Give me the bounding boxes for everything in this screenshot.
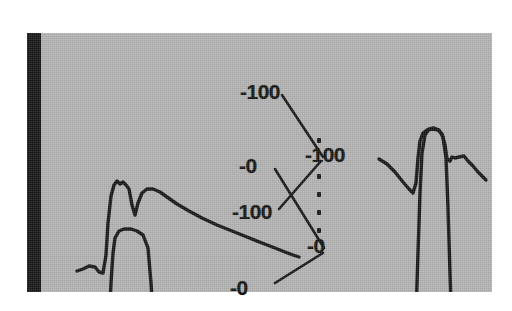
label-mid-left-scale: -0 <box>239 155 257 176</box>
axis-tick-mark <box>317 192 321 197</box>
axis-tick-mark <box>317 174 321 179</box>
axis-tick-mark <box>317 228 321 233</box>
scan-panel: -100 -0 -100 -0 -100 -0 <box>27 33 492 292</box>
label-lower-left-scale: -100 <box>232 201 272 222</box>
figure-root: -100 -0 -100 -0 -100 -0 <box>0 0 512 311</box>
trace-bottom-right <box>375 128 485 292</box>
trace-top-right <box>379 129 486 193</box>
label-bottom-left-scale: -0 <box>230 277 248 298</box>
waveform-trace-layer <box>27 33 492 292</box>
label-right-axis-top: -100 <box>305 144 345 165</box>
axis-tick-mark <box>317 210 321 215</box>
trace-top-left <box>77 181 299 273</box>
label-right-axis-bottom: -0 <box>307 235 325 256</box>
label-top-left-scale: -100 <box>240 81 280 102</box>
